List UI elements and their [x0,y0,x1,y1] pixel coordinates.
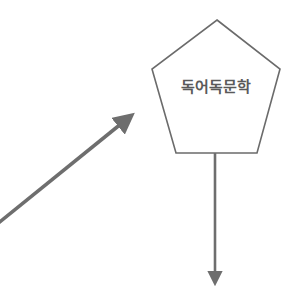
incoming-diagonal-arrow[interactable] [0,119,127,225]
diagram-svg [0,0,298,306]
diagram-canvas: 독어독문학 [0,0,298,306]
node-label: 독어독문학 [160,76,272,98]
